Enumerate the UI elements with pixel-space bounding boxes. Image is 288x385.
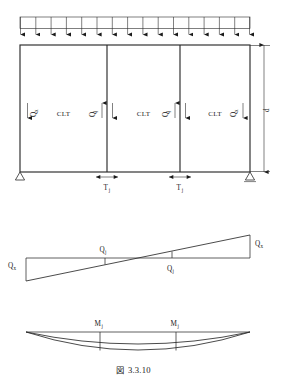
bending-moment-diagram: M j M j xyxy=(26,320,250,351)
figure-container: CLT CLT CLT Q x Q j xyxy=(0,0,288,385)
panel-label-3: CLT xyxy=(208,110,222,118)
edge-force-right: Q x xyxy=(230,103,243,118)
svg-text:j: j xyxy=(177,323,179,329)
structural-figure: CLT CLT CLT Q x Q j xyxy=(0,0,288,385)
joint-dimension-1-label: T xyxy=(104,184,109,192)
height-dimension: d xyxy=(250,45,271,172)
svg-text:j: j xyxy=(101,323,103,329)
joint-dimension-2-subscript: j xyxy=(181,187,183,193)
figure-caption: 図 3.3.10 xyxy=(116,365,151,375)
caption-symbol: 図 xyxy=(116,365,124,375)
joint-dimension-2-label: T xyxy=(177,184,182,192)
shear-label-right: Q x xyxy=(255,240,263,249)
wall-outline xyxy=(20,45,250,172)
svg-text:M: M xyxy=(95,320,102,328)
svg-text:x: x xyxy=(13,265,16,271)
distributed-load-bar xyxy=(20,17,250,29)
joint-dimension-1-subscript: j xyxy=(108,187,110,193)
distributed-load-group xyxy=(20,17,250,35)
joint-force-2-subscript: j xyxy=(165,111,171,113)
panel-label-1: CLT xyxy=(57,110,71,118)
caption-number: 3.3.10 xyxy=(128,365,151,375)
moment-label-1: M j xyxy=(95,320,104,329)
svg-text:j: j xyxy=(171,268,173,274)
edge-force-left: Q x xyxy=(28,103,39,118)
moment-label-2: M j xyxy=(171,320,180,329)
joint-dimension-2: T j xyxy=(169,177,191,193)
joint-force-2: Q j xyxy=(162,103,186,118)
joint-dimension-1: T j xyxy=(96,177,118,193)
edge-force-left-subscript: x xyxy=(33,109,39,112)
shear-label-inner-right: Q j xyxy=(167,265,174,274)
height-dimension-label: d xyxy=(263,108,271,112)
svg-text:x: x xyxy=(260,243,263,249)
frame-diagram: CLT CLT CLT Q x Q j xyxy=(15,45,271,193)
joint-force-1-subscript: j xyxy=(92,111,98,113)
shear-label-inner-left: Q j xyxy=(100,246,107,255)
distributed-load-arrows xyxy=(21,17,250,35)
moment-curve-lower xyxy=(26,332,250,350)
edge-force-right-subscript: x xyxy=(233,109,239,112)
shear-label-left: Q x xyxy=(8,262,16,271)
moment-curve-upper xyxy=(26,332,250,344)
panel-label-2: CLT xyxy=(137,110,151,118)
support-left xyxy=(15,172,24,180)
support-right xyxy=(244,172,256,182)
shear-force-diagram: Q x Q j Q j Q x xyxy=(8,235,263,281)
joint-force-1: Q j xyxy=(89,103,113,118)
svg-text:j: j xyxy=(104,249,106,255)
svg-text:M: M xyxy=(171,320,178,328)
